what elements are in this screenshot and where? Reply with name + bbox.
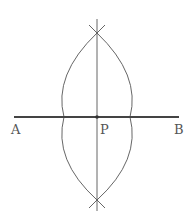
- label-p: P: [100, 122, 109, 137]
- midpoint-p-dot: [95, 115, 99, 119]
- perpendicular-bisector-diagram: A P B: [0, 0, 191, 217]
- label-a: A: [10, 122, 21, 137]
- label-b: B: [174, 122, 184, 137]
